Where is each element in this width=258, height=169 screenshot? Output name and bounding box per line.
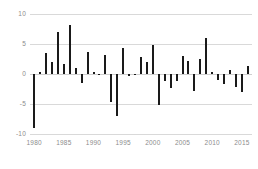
x-axis-tick-label: 2000 — [145, 140, 160, 147]
bar — [93, 72, 95, 74]
bar — [98, 74, 100, 75]
bar — [199, 59, 201, 74]
x-axis-line — [30, 134, 252, 135]
y-axis-tick-label: 0 — [4, 71, 26, 78]
bar — [63, 64, 65, 74]
bar — [33, 74, 35, 128]
bar — [223, 74, 225, 84]
bar — [57, 32, 59, 74]
bar — [152, 45, 154, 74]
bar — [39, 72, 41, 74]
bar — [104, 55, 106, 74]
y-axis-tick-label: -10 — [4, 131, 26, 138]
bar — [229, 70, 231, 74]
bar — [51, 62, 53, 74]
bar — [81, 74, 83, 83]
bar — [75, 68, 77, 74]
bar — [170, 74, 172, 88]
bar — [241, 74, 243, 92]
bar — [164, 74, 166, 81]
bar — [193, 74, 195, 91]
bar — [110, 74, 112, 102]
x-axis-tick-label: 1990 — [86, 140, 101, 147]
bar — [176, 74, 178, 81]
bar — [87, 52, 89, 74]
bar — [235, 74, 237, 87]
bar — [247, 66, 249, 74]
bar — [122, 48, 124, 74]
bar — [187, 61, 189, 74]
y-axis-tick-label: 10 — [4, 11, 26, 18]
x-axis-tick-label: 2005 — [175, 140, 190, 147]
x-axis-tick-label: 1995 — [116, 140, 131, 147]
bar — [146, 62, 148, 74]
bar — [140, 57, 142, 74]
plot-area — [30, 14, 252, 134]
bar — [217, 74, 219, 80]
x-axis-tick-label: 1980 — [27, 140, 42, 147]
bar — [211, 72, 213, 74]
x-axis-tick-label: 2015 — [234, 140, 249, 147]
y-axis-tick-label: -5 — [4, 101, 26, 108]
bar — [134, 74, 136, 75]
bar — [45, 53, 47, 74]
bar — [158, 74, 160, 105]
bar-series — [30, 14, 252, 134]
x-axis-tick-label: 1985 — [56, 140, 71, 147]
bar — [205, 38, 207, 74]
bar-chart: 1050-5-10 198019851990199520002005201020… — [0, 0, 258, 169]
bar — [116, 74, 118, 116]
bar — [128, 74, 130, 76]
y-axis-tick-label: 5 — [4, 41, 26, 48]
x-axis-tick-label: 2010 — [205, 140, 220, 147]
bar — [69, 25, 71, 74]
bar — [182, 56, 184, 74]
